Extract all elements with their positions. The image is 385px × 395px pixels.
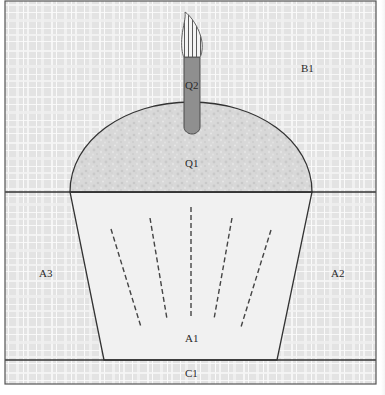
label-Q2: Q2 xyxy=(185,79,198,91)
label-Q1: Q1 xyxy=(185,157,198,169)
label-A1: A1 xyxy=(185,332,198,344)
label-A3: A3 xyxy=(39,267,53,279)
label-B1: B1 xyxy=(301,62,314,74)
label-C1: C1 xyxy=(185,367,198,379)
label-A2: A2 xyxy=(331,267,344,279)
candle-stick xyxy=(184,57,200,134)
cupcake-diagram: B1 Q2 Q1 A3 A2 A1 C1 xyxy=(0,0,385,395)
